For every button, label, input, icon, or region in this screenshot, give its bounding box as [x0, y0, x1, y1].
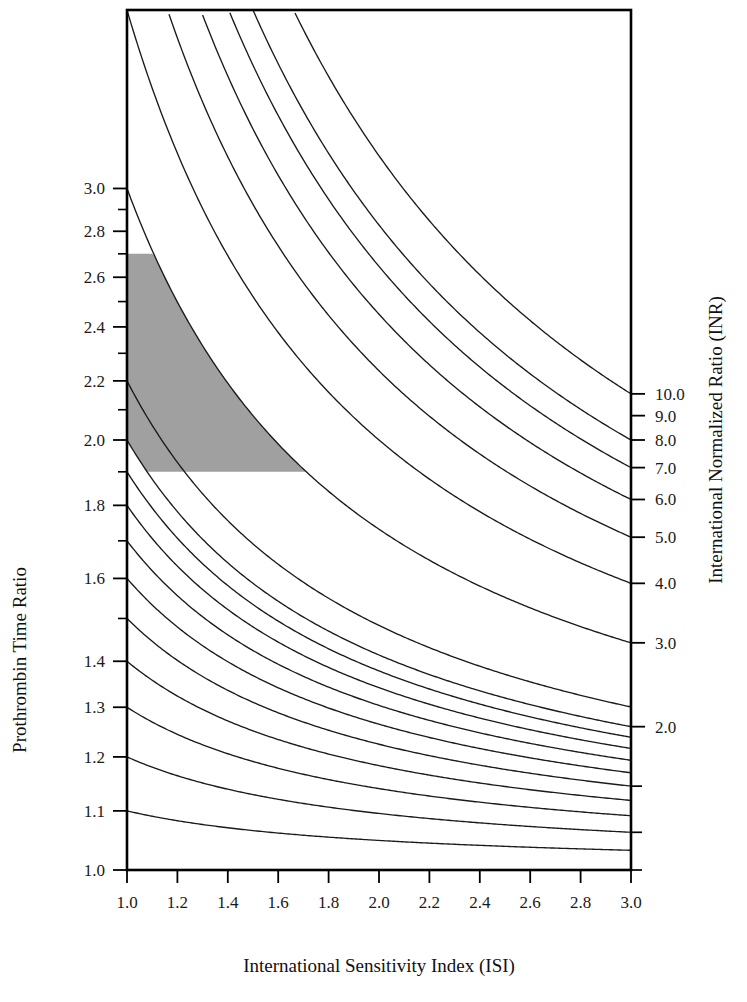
nomogram-svg: 3.02.82.62.42.22.01.81.61.41.31.21.11.0 …	[0, 0, 747, 1002]
right-axis-tick-label: 4.0	[655, 574, 676, 593]
x-axis-tick-label: 1.6	[268, 893, 289, 912]
left-axis-tick-label: 1.2	[84, 748, 105, 767]
left-axis-tick-label: 1.6	[84, 569, 105, 588]
x-axis-tick-label: 1.8	[318, 893, 339, 912]
left-axis-tick-label: 1.4	[84, 652, 106, 671]
x-axis-tick-label: 2.6	[520, 893, 541, 912]
left-axis-tick-label: 1.3	[84, 698, 105, 717]
right-axis-tick-label: 10.0	[655, 385, 685, 404]
left-axis-tick-label: 2.0	[84, 431, 105, 450]
x-axis-tick-label: 2.0	[368, 893, 389, 912]
y-axis-title-left: Prothrombin Time Ratio	[9, 567, 30, 753]
left-axis-tick-label: 2.6	[84, 268, 105, 287]
x-axis-tick-label: 2.2	[419, 893, 440, 912]
right-axis-tick-label: 9.0	[655, 407, 676, 426]
right-axis-tick-label: 7.0	[655, 459, 676, 478]
x-axis-title: International Sensitivity Index (ISI)	[243, 955, 515, 977]
right-axis-tick-label: 6.0	[655, 490, 676, 509]
x-axis-tick-label: 1.2	[167, 893, 188, 912]
x-axis-tick-label: 3.0	[620, 893, 641, 912]
left-axis-tick-label: 2.4	[84, 318, 106, 337]
inr-nomogram-figure: 3.02.82.62.42.22.01.81.61.41.31.21.11.0 …	[0, 0, 747, 1002]
figure-background	[0, 0, 747, 1002]
right-axis-tick-label: 8.0	[655, 431, 676, 450]
x-axis-tick-label: 1.4	[217, 893, 239, 912]
left-axis-tick-label: 3.0	[84, 179, 105, 198]
right-axis-tick-label: 3.0	[655, 634, 676, 653]
right-axis-tick-label: 2.0	[655, 718, 676, 737]
y-axis-title-right: International Normalized Ratio (INR)	[705, 296, 727, 584]
left-axis-tick-label: 1.1	[84, 802, 105, 821]
left-axis-tick-label: 1.0	[84, 861, 105, 880]
right-axis-tick-label: 5.0	[655, 528, 676, 547]
left-axis-tick-label: 2.2	[84, 372, 105, 391]
x-axis-tick-label: 2.4	[469, 893, 491, 912]
x-axis-tick-label: 1.0	[116, 893, 137, 912]
x-axis-tick-label: 2.8	[570, 893, 591, 912]
left-axis-tick-label: 2.8	[84, 222, 105, 241]
left-axis-tick-label: 1.8	[84, 496, 105, 515]
